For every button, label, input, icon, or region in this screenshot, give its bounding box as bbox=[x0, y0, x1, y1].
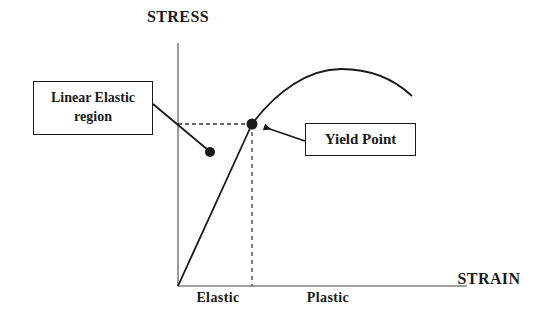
y-axis-title: STRESS bbox=[147, 8, 209, 26]
stress-strain-diagram: STRESS STRAIN Elastic Plastic Linear Ela… bbox=[0, 0, 558, 326]
callout-linear-elastic-text: Linear Elastic region bbox=[51, 89, 135, 127]
callout-yield-point: Yield Point bbox=[305, 123, 416, 156]
plastic-curve-line bbox=[252, 69, 412, 124]
linear-region-marker bbox=[205, 147, 215, 157]
yield-point-marker bbox=[247, 119, 258, 130]
x-axis-title: STRAIN bbox=[458, 270, 521, 288]
callout-linear-elastic-line2: region bbox=[74, 109, 112, 124]
callout-yield-point-text: Yield Point bbox=[325, 131, 397, 148]
elastic-slope-line bbox=[178, 124, 252, 286]
callout-linear-elastic-line1: Linear Elastic bbox=[51, 90, 135, 105]
yield-point-leader-line bbox=[264, 127, 305, 141]
region-label-elastic: Elastic bbox=[196, 290, 239, 306]
region-label-plastic: Plastic bbox=[307, 290, 349, 306]
linear-elastic-leader-line bbox=[153, 104, 208, 150]
callout-linear-elastic-region: Linear Elastic region bbox=[33, 81, 153, 135]
